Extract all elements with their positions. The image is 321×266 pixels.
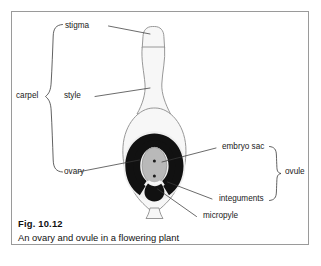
style-shape [137, 47, 171, 114]
embryo-sac-shape [142, 147, 167, 183]
ovule-group [123, 131, 185, 202]
stigma-shape [142, 27, 164, 49]
carpel-brace [46, 25, 63, 173]
ovule-brace [270, 147, 282, 201]
embryo-sac-nucleus-lower [153, 175, 156, 178]
label-ovary: ovary [64, 168, 84, 176]
leader-stigma [109, 26, 151, 34]
label-style: style [64, 92, 81, 100]
figure-caption-text: An ovary and ovule in a flowering plant [18, 232, 248, 244]
ovary-stalk-shape [146, 208, 163, 219]
label-integuments: integuments [219, 195, 264, 203]
figure-page: stigma style ovary carpel embryo sac int… [0, 0, 321, 266]
embryo-sac-nucleus-upper [153, 160, 156, 163]
figure-caption-number: Fig. 10.12 [18, 219, 248, 230]
leader-style [95, 88, 150, 97]
label-ovule: ovule [285, 168, 305, 176]
label-stigma: stigma [65, 22, 89, 30]
label-embryo-sac: embryo sac [222, 143, 264, 151]
figure-caption: Fig. 10.12 An ovary and ovule in a flowe… [18, 219, 248, 244]
label-carpel: carpel [16, 92, 38, 100]
